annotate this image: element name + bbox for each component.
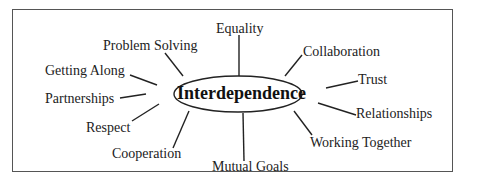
node-trust: Trust — [358, 73, 387, 87]
node-relationships: Relationships — [356, 107, 432, 121]
center-concept: Interdependence — [177, 84, 306, 102]
node-collaboration: Collaboration — [303, 45, 380, 59]
node-mutual-goals: Mutual Goals — [212, 160, 289, 174]
node-working-together: Working Together — [310, 136, 411, 150]
node-getting-along: Getting Along — [45, 64, 125, 78]
node-partnerships: Partnerships — [45, 92, 114, 106]
node-respect: Respect — [86, 121, 130, 135]
node-equality: Equality — [216, 22, 263, 36]
node-cooperation: Cooperation — [112, 147, 181, 161]
node-problem-solving: Problem Solving — [103, 39, 198, 53]
